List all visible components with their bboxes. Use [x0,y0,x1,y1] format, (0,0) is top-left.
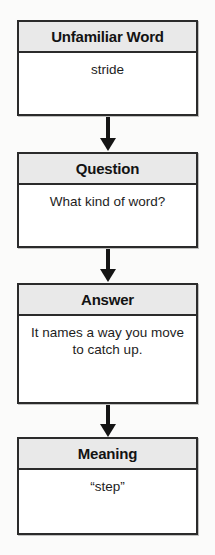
node-header-title: Answer [19,285,196,316]
flowchart-node-unfamiliar-word: Unfamiliar Word stride [17,20,198,116]
flowchart-node-meaning: Meaning “step” [17,437,198,535]
arrow-head [100,424,116,437]
node-header-title: Unfamiliar Word [19,22,196,53]
arrow-head [100,138,116,151]
arrow-down-icon [100,117,116,151]
flowchart-node-question: Question What kind of word? [17,152,198,248]
flowchart-diagram: Unfamiliar Word stride Question What kin… [0,0,215,555]
flowchart-node-answer: Answer It names a way you move to catch … [17,283,198,404]
arrow-shaft [106,249,110,269]
node-body-text: It names a way you move to catch up. [28,324,187,358]
node-body-text: “step” [28,478,187,495]
arrow-head [100,269,116,282]
arrow-down-icon [100,249,116,282]
arrow-shaft [106,117,110,138]
node-header-title: Meaning [19,439,196,470]
node-body: “step” [19,470,196,533]
node-body: What kind of word? [19,185,196,246]
node-body-text: What kind of word? [28,193,187,210]
node-body: It names a way you move to catch up. [19,316,196,402]
node-header-title: Question [19,154,196,185]
node-body: stride [19,53,196,114]
arrow-down-icon [100,405,116,437]
arrow-shaft [106,405,110,424]
node-body-text: stride [28,61,187,78]
